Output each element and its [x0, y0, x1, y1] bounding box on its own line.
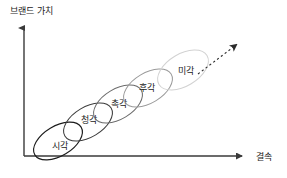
- sense-label-touch: 촉각: [111, 98, 127, 109]
- sense-group-5: 미각: [151, 42, 215, 98]
- sense-label-taste: 미각: [178, 65, 194, 76]
- sense-label-hearing: 청각: [81, 114, 97, 125]
- x-axis-label: 결속: [256, 152, 272, 162]
- trend-arrow-dashed: [198, 45, 236, 74]
- sense-label-smell: 후각: [139, 82, 155, 93]
- brand-value-sense-diagram: 브랜드 가치 결속 시각 청각 촉각 후각 미각: [0, 0, 287, 178]
- sense-label-sight: 시각: [52, 140, 68, 151]
- y-axis-label: 브랜드 가치: [10, 5, 53, 16]
- diagram-canvas: 브랜드 가치 결속 시각 청각 촉각 후각 미각: [0, 0, 287, 178]
